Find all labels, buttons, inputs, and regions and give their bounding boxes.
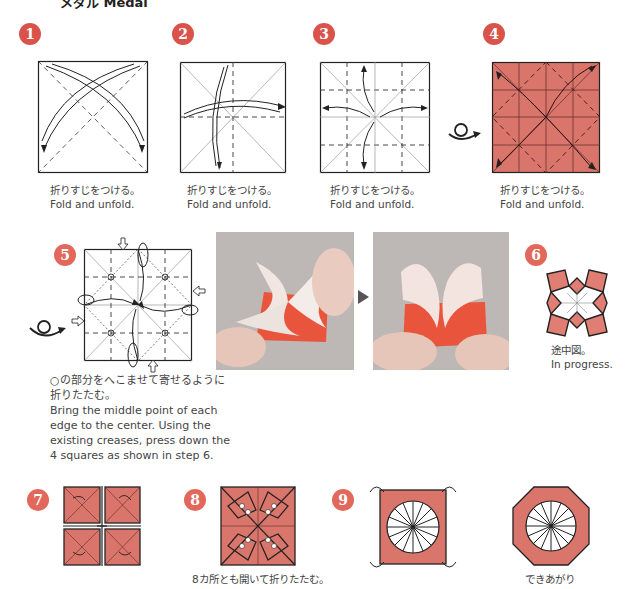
caption-jp: 折りすじをつける。 — [187, 183, 277, 197]
turn-over-icon — [447, 122, 481, 142]
push-arrow-icon — [148, 360, 158, 372]
step-badge-2: 2 — [172, 23, 194, 45]
step-8-caption: 8カ所とも開いて折りたたむ。 — [192, 572, 329, 586]
step-3-caption: 折りすじをつける。 Fold and unfold. — [330, 183, 420, 211]
turn-over-icon — [28, 318, 66, 340]
step-badge-6: 6 — [525, 244, 547, 266]
step-badge-1: 1 — [19, 23, 41, 45]
step-4-caption: 折りすじをつける。 Fold and unfold. — [500, 183, 590, 211]
finished-caption: できあがり — [525, 572, 575, 586]
caption-en-line: 4 squares as shown in step 6. — [50, 448, 270, 463]
step-1-caption: 折りすじをつける。 Fold and unfold. — [50, 183, 140, 211]
page-title: メダル Medal — [60, 0, 148, 11]
step-9-diagram — [368, 484, 452, 568]
step-badge-9: 9 — [332, 489, 354, 511]
step-badge-3: 3 — [313, 23, 335, 45]
push-arrow-icon — [72, 316, 84, 326]
step-badge-8: 8 — [184, 489, 206, 511]
step-badge-5: 5 — [54, 244, 76, 266]
step-7-diagram — [63, 486, 141, 566]
caption-en: Fold and unfold. — [330, 197, 420, 211]
step-2-caption: 折りすじをつける。 Fold and unfold. — [187, 183, 277, 211]
caption-jp-line: ○の部分をへこませて寄せるように — [50, 373, 270, 388]
caption-en: In progress. — [551, 357, 613, 371]
step-6-caption: 途中図。 In progress. — [551, 343, 613, 371]
caption-en: Fold and unfold. — [187, 197, 277, 211]
step-3-diagram — [320, 62, 430, 173]
step-6-diagram — [545, 270, 609, 336]
step-2-diagram — [180, 62, 286, 173]
caption-jp: 途中図。 — [551, 343, 613, 357]
push-arrow-icon — [193, 286, 205, 296]
step-5-caption: ○の部分をへこませて寄せるように 折りたたむ。 Bring the middle… — [50, 373, 270, 463]
caption-jp: 折りすじをつける。 — [500, 183, 590, 197]
photo-step-5b — [373, 232, 509, 370]
caption-jp: 折りすじをつける。 — [330, 183, 420, 197]
caption-en-line: existing creases, press down the — [50, 433, 270, 448]
step-5-diagram — [84, 249, 192, 361]
push-arrow-icon — [118, 238, 128, 250]
step-4-diagram — [492, 62, 600, 173]
step-badge-7: 7 — [27, 489, 49, 511]
caption-en-line: edge to the center. Using the — [50, 418, 270, 433]
caption-en: Fold and unfold. — [50, 197, 140, 211]
caption-en: Fold and unfold. — [500, 197, 590, 211]
caption-en-line: Bring the middle point of each — [50, 403, 270, 418]
step-1-diagram — [38, 61, 148, 173]
finished-diagram — [512, 486, 590, 566]
photo-step-5a — [216, 232, 354, 370]
step-8-diagram — [220, 486, 296, 566]
step-badge-4: 4 — [483, 23, 505, 45]
caption-jp: 折りすじをつける。 — [50, 183, 140, 197]
caption-jp-line: 折りたたむ。 — [50, 388, 270, 403]
play-arrow-icon — [358, 290, 369, 304]
